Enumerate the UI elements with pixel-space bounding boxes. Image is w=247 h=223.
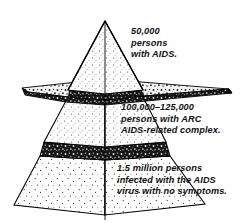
label-asym-line-1: 1.5 million persons	[117, 163, 227, 175]
label-aids-line-1: 50,000	[131, 26, 177, 38]
label-asymptomatic-tier: 1.5 million persons infected with the AI…	[117, 163, 227, 198]
label-arc-line-3: AIDS-related complex.	[121, 125, 221, 137]
label-asym-line-2: infected with the AIDS	[117, 175, 227, 187]
label-arc-tier: 100,000–125,000 persons with ARC AIDS-re…	[121, 102, 221, 137]
label-arc-line-1: 100,000–125,000	[121, 102, 221, 114]
label-aids-line-3: with AIDS.	[131, 49, 177, 61]
label-arc-line-2: persons with ARC	[121, 114, 221, 126]
label-aids-tier: 50,000 persons with AIDS.	[131, 26, 177, 61]
label-asym-line-3: virus with no symptoms.	[117, 186, 227, 198]
label-aids-line-2: persons	[131, 38, 177, 50]
pyramid-diagram: 50,000 persons with AIDS. 100,000–125,00…	[0, 0, 247, 223]
